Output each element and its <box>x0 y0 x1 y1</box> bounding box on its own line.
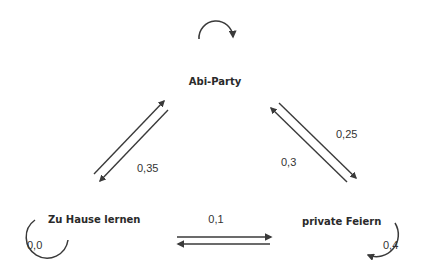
edge-private-to-abi <box>271 108 347 182</box>
edge-label-home-to-private: 0,1 <box>208 213 223 225</box>
edge-label-private-self: 0,4 <box>383 239 398 251</box>
node-private-feiern: private Feiern <box>302 216 381 227</box>
edge-label-home-to-abi: 0,35 <box>137 162 158 174</box>
node-zu-hause-lernen: Zu Hause lernen <box>48 214 140 225</box>
edge-label-home-self: 0,0 <box>27 239 42 251</box>
node-abi-party: Abi-Party <box>189 76 242 87</box>
edge-label-abi-to-private: 0,25 <box>336 128 357 140</box>
self-loop-abi-party <box>199 21 233 39</box>
state-diagram: Abi-Party 0,35 0,25 0,3 0,1 Zu Hause ler… <box>0 0 431 280</box>
edge-label-private-to-abi: 0,3 <box>281 156 296 168</box>
